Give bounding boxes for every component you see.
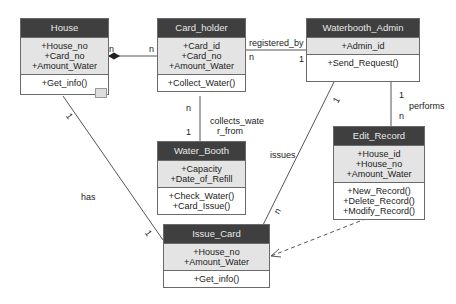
- operation: +Modify_Record(): [334, 206, 424, 216]
- attribute: +Card_no: [21, 51, 108, 61]
- class-card-holder[interactable]: Card_holder +Card_id +Card_no +Amount_Wa…: [157, 18, 246, 92]
- class-edit-record-title: Edit_Record: [334, 127, 424, 145]
- association-label-registered-by: registered_by: [249, 38, 304, 48]
- class-waterbooth-admin-title: Waterbooth_Admin: [307, 19, 419, 37]
- class-waterbooth-admin-attributes: +Admin_id: [307, 37, 419, 54]
- operation: +Delete_Record(): [334, 196, 424, 206]
- attribute: +Amount_Water: [158, 61, 245, 71]
- class-issue-card-attributes: +House_no +Amount_Water: [164, 243, 269, 270]
- class-card-holder-attributes: +Card_id +Card_no +Amount_Water: [158, 37, 245, 74]
- attribute: +House_no: [334, 159, 424, 169]
- attribute: +House_no: [21, 41, 108, 51]
- multiplicity-label: 1: [299, 54, 304, 64]
- association-label-issues: issues: [270, 150, 296, 160]
- collapse-handle-icon[interactable]: [95, 88, 107, 98]
- attribute: +Date_of_Refill: [158, 174, 245, 184]
- operation: +Get_info(): [21, 78, 108, 88]
- class-waterbooth-admin[interactable]: Waterbooth_Admin +Admin_id +Send_Request…: [306, 18, 420, 82]
- attribute: +Amount_Water: [164, 257, 269, 267]
- multiplicity-label: n: [109, 44, 114, 54]
- attribute: +Card_no: [158, 51, 245, 61]
- class-house[interactable]: House +House_no +Card_no +Amount_Water +…: [20, 18, 109, 95]
- operation: +Send_Request(): [307, 58, 419, 68]
- operation: +Card_Issue(): [158, 201, 245, 211]
- class-waterbooth-admin-operations: +Send_Request(): [307, 54, 419, 81]
- operation: +Get_info(): [164, 274, 269, 284]
- attribute: +House_no: [164, 247, 269, 257]
- class-water-booth[interactable]: Water_Booth +Capacity +Date_of_Refill +C…: [157, 141, 246, 215]
- attribute: +Card_id: [158, 41, 245, 51]
- multiplicity-label: 1: [186, 127, 191, 137]
- class-edit-record[interactable]: Edit_Record +House_id +House_no +Amount_…: [333, 126, 425, 220]
- multiplicity-label: n: [186, 103, 191, 113]
- class-water-booth-title: Water_Booth: [158, 142, 245, 160]
- attribute: +Admin_id: [307, 41, 419, 51]
- multiplicity-label: n: [399, 111, 404, 121]
- operation: +New_Record(): [334, 186, 424, 196]
- association-label-collects-water-from: collects_wate r_from: [210, 116, 264, 136]
- multiplicity-label: n: [249, 52, 254, 62]
- association-label-performs: performs: [409, 101, 445, 111]
- multiplicity-label: n: [149, 44, 154, 54]
- multiplicity-label: 1: [399, 90, 404, 100]
- association-label-line: r_from: [210, 126, 264, 136]
- class-issue-card-title: Issue_Card: [164, 225, 269, 243]
- class-water-booth-operations: +Check_Water() +Card_Issue(): [158, 187, 245, 214]
- operation: +Collect_Water(): [158, 78, 245, 88]
- class-card-holder-title: Card_holder: [158, 19, 245, 37]
- class-water-booth-attributes: +Capacity +Date_of_Refill: [158, 160, 245, 187]
- attribute: +Capacity: [158, 164, 245, 174]
- class-edit-record-operations: +New_Record() +Delete_Record() +Modify_R…: [334, 182, 424, 219]
- class-card-holder-operations: +Collect_Water(): [158, 74, 245, 91]
- class-house-attributes: +House_no +Card_no +Amount_Water: [21, 37, 108, 74]
- class-issue-card-operations: +Get_info(): [164, 270, 269, 287]
- association-label-line: collects_wate: [210, 116, 264, 126]
- association-label-has: has: [81, 192, 96, 202]
- class-edit-record-attributes: +House_id +House_no +Amount_Water: [334, 145, 424, 182]
- operation: +Check_Water(): [158, 191, 245, 201]
- attribute: +Amount_Water: [334, 169, 424, 179]
- class-issue-card[interactable]: Issue_Card +House_no +Amount_Water +Get_…: [163, 224, 270, 288]
- attribute: +House_id: [334, 149, 424, 159]
- class-house-title: House: [21, 19, 108, 37]
- attribute: +Amount_Water: [21, 61, 108, 71]
